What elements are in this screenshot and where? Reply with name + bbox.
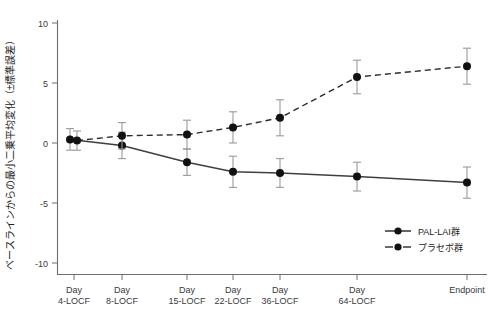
series-line <box>77 66 467 140</box>
data-point-marker <box>276 114 284 122</box>
y-axis-ticks: 10 5 0 -5 -10 <box>35 19 58 269</box>
x-tick-label: Day22-LOCF <box>214 285 252 306</box>
x-tick-label: Day8-LOCF <box>106 285 139 306</box>
chart-figure: ベースラインからの最小二乗平均変化（±標準誤差） 10 5 0 -5 -10 D… <box>0 0 493 321</box>
data-point-marker <box>229 168 237 176</box>
y-tick-label-neg5: -5 <box>40 199 48 209</box>
legend-item[interactable]: プラセボ群 <box>385 242 463 253</box>
data-point-marker <box>276 169 284 177</box>
line-chart: ベースラインからの最小二乗平均変化（±標準誤差） 10 5 0 -5 -10 D… <box>0 0 493 321</box>
x-tick-label: Day36-LOCF <box>261 285 299 306</box>
legend-marker-icon <box>394 243 401 250</box>
y-tick-label-neg10: -10 <box>35 259 48 269</box>
data-point-marker <box>229 123 237 131</box>
data-point-marker <box>353 73 361 81</box>
x-tick-label: Day15-LOCF <box>168 285 206 306</box>
x-tick-label: Day64-LOCF <box>338 285 376 306</box>
legend-item[interactable]: PAL-LAI群 <box>385 226 460 237</box>
x-tick-label: Day4-LOCF <box>58 285 91 306</box>
data-point-marker <box>183 131 191 139</box>
y-axis-label: ベースラインからの最小二乗平均変化（±標準誤差） <box>4 35 16 271</box>
legend-label: プラセボ群 <box>418 242 463 253</box>
data-point-marker <box>118 132 126 140</box>
y-tick-label-0: 0 <box>43 139 48 149</box>
data-point-marker <box>183 158 191 166</box>
legend-marker-icon <box>394 227 401 234</box>
legend-label: PAL-LAI群 <box>418 226 460 237</box>
data-point-marker <box>463 62 471 70</box>
series-line <box>70 139 467 182</box>
y-tick-label-10: 10 <box>38 19 48 29</box>
x-tick-label: Endpoint <box>449 285 485 295</box>
series-group <box>66 48 471 198</box>
chart-legend: PAL-LAI群プラセボ群 <box>385 226 463 253</box>
data-point-marker <box>73 137 81 145</box>
y-tick-label-5: 5 <box>43 79 48 89</box>
data-point-marker <box>353 173 361 181</box>
x-axis-ticks: Day4-LOCFDay8-LOCFDay15-LOCFDay22-LOCFDa… <box>58 275 485 307</box>
data-point-marker <box>463 179 471 187</box>
data-point-marker <box>66 135 74 143</box>
